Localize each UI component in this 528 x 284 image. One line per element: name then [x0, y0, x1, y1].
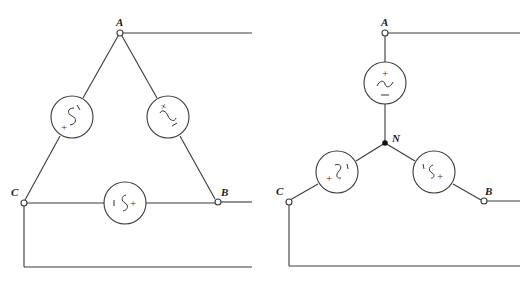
plus-sign: + — [61, 121, 67, 133]
neutral-node — [382, 140, 388, 146]
voltage-source-an: + — [364, 62, 406, 104]
plus-sign: + — [382, 67, 388, 79]
plus-sign: + — [437, 170, 443, 182]
wire-a-to-source-ab — [122, 36, 157, 98]
voltage-source-ca: + — [51, 96, 93, 138]
voltage-source-cn: + — [316, 151, 358, 193]
node-label-b: B — [484, 185, 492, 197]
ac-source-icon — [51, 96, 93, 138]
ac-source-icon — [413, 151, 455, 193]
ac-source-icon — [316, 151, 358, 193]
node-label-c: C — [11, 186, 19, 198]
wire-n-to-source-cn — [356, 143, 385, 161]
node-label-a: A — [115, 16, 123, 28]
plus-sign: + — [326, 172, 332, 184]
terminal-b — [215, 199, 221, 205]
node-label-a: A — [380, 16, 388, 28]
plus-sign: + — [130, 197, 136, 209]
node-label-c: C — [276, 185, 284, 197]
wire-n-to-source-bn — [385, 143, 415, 161]
wire-source-ab-to-b — [180, 136, 215, 199]
terminal-c — [286, 199, 292, 205]
terminal-a — [382, 30, 388, 36]
terminal-a — [117, 30, 123, 36]
node-label-n: N — [391, 132, 401, 144]
three-phase-diagram: + + + A C B — [0, 0, 528, 284]
voltage-source-ab: + — [147, 96, 189, 138]
wire-source-bn-to-b — [453, 184, 481, 200]
wire-a-to-source-ca — [83, 36, 118, 98]
wire-source-ca-to-c — [25, 136, 60, 200]
terminal-b — [481, 198, 487, 204]
wye-circuit: + + + A N C B — [276, 16, 520, 266]
delta-circuit: + + + A C B — [11, 16, 252, 267]
voltage-source-bc: + — [104, 182, 146, 224]
node-label-b: B — [220, 186, 228, 198]
terminal-c — [21, 200, 27, 206]
voltage-source-bn: + — [413, 151, 455, 193]
wire-source-cn-to-c — [290, 184, 318, 200]
